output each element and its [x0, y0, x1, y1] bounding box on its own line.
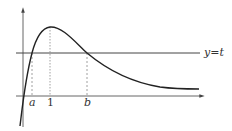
- function-graph: a 1 b y=t: [0, 0, 232, 131]
- label-b: b: [84, 96, 91, 109]
- label-a: a: [29, 96, 36, 109]
- function-curve: [20, 27, 199, 126]
- label-1: 1: [47, 96, 54, 109]
- label-y-equals-t: y=t: [203, 46, 224, 59]
